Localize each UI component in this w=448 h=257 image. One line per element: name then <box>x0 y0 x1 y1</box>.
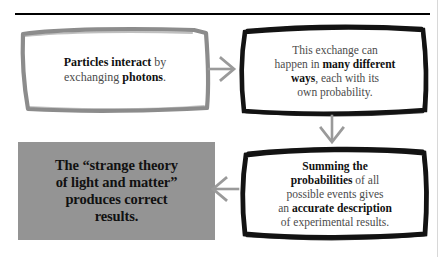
box-ways-text: This exchange canhappen in many differen… <box>269 43 402 99</box>
line-4: an accurate description <box>278 202 392 214</box>
line-5: of experimental results. <box>281 216 389 228</box>
box-particles-exchange: Particles interact byexchanging photons. <box>18 24 212 116</box>
box-conclusion-text: The “strange theoryof light and matter”p… <box>51 157 182 224</box>
box-strange-theory-conclusion: The “strange theoryof light and matter”p… <box>18 142 215 240</box>
line-2: exchanging photons. <box>64 70 166 84</box>
line-1: Particles interact by <box>64 55 167 69</box>
line-1: This exchange can <box>292 44 378 56</box>
line-2: of light and matter” <box>56 174 178 190</box>
arrow-down-icon <box>315 113 349 147</box>
box-summing-probabilities: Summing theprobabilities of allpossible … <box>237 146 433 242</box>
top-horizontal-rule <box>15 13 430 15</box>
line-3: produces correct <box>65 191 167 207</box>
line-3: ways, each with its <box>291 72 379 84</box>
line-1: Summing the <box>302 160 368 172</box>
box-summing-text: Summing theprobabilities of allpossible … <box>272 159 398 229</box>
line-1: The “strange theory <box>55 157 178 173</box>
page-edge-line <box>437 0 438 257</box>
line-4: own probability. <box>297 86 372 98</box>
line-4: results. <box>95 208 139 224</box>
line-2: happen in many different <box>275 58 396 70</box>
line-2: probabilities of all <box>291 174 380 186</box>
box-many-different-ways: This exchange canhappen in many differen… <box>237 24 433 118</box>
line-3: possible events gives <box>286 188 383 200</box>
box-exchange-text: Particles interact byexchanging photons. <box>58 55 173 84</box>
diagram-page: Particles interact byexchanging photons.… <box>0 0 448 257</box>
